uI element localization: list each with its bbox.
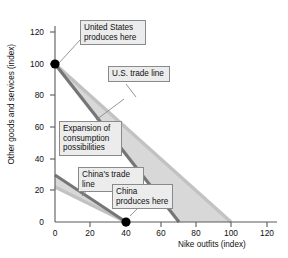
callout-china-produces-here: China produces here: [112, 184, 173, 209]
x-axis-title: Nike outfits (index): [178, 240, 246, 249]
x-tick-label-60: 60: [149, 228, 173, 238]
x-axis-ticks: [90, 222, 267, 227]
callout-united-states-produces-here: United States produces here: [80, 20, 146, 45]
x-tick-label-80: 80: [184, 228, 208, 238]
y-tick-label-100: 100: [16, 59, 44, 69]
y-tick-label-60: 60: [16, 122, 44, 132]
callout-expansion-of-consumption: Expansion of consumption possibilities: [59, 121, 122, 156]
leader-us-produces: [59, 40, 80, 63]
callout-us-trade-line: U.S. trade line: [108, 66, 170, 82]
leader-us-trade: [126, 84, 136, 97]
x-tick-label-120: 120: [255, 228, 279, 238]
y-tick-label-0: 0: [16, 217, 44, 227]
x-tick-label-100: 100: [219, 228, 243, 238]
y-tick-label-80: 80: [16, 90, 44, 100]
y-tick-label-40: 40: [16, 154, 44, 164]
x-tick-label-0: 0: [43, 228, 67, 238]
y-axis-title: Other goods and services (index): [7, 55, 16, 165]
x-tick-label-40: 40: [114, 228, 138, 238]
y-axis-ticks: [50, 32, 55, 190]
chart-figure: 120 100 80 60 40 20 0 0 20 40 60 80 100 …: [0, 0, 288, 258]
y-tick-label-20: 20: [16, 185, 44, 195]
y-tick-label-120: 120: [16, 27, 44, 37]
us-produces-marker: [50, 59, 59, 68]
china-produces-marker: [121, 217, 130, 226]
x-tick-label-20: 20: [78, 228, 102, 238]
